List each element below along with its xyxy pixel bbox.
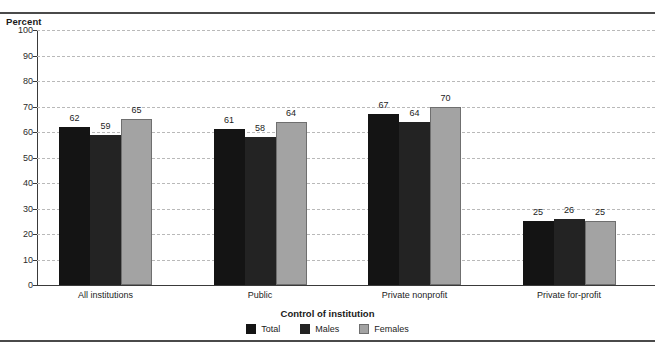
bar-females bbox=[430, 107, 461, 286]
bar-males bbox=[90, 135, 121, 285]
bar-males bbox=[399, 122, 430, 285]
y-axis-tick-label: 30 bbox=[5, 204, 33, 214]
y-axis-tick bbox=[33, 158, 37, 159]
legend-swatch-females bbox=[359, 324, 369, 334]
bar-value-label: 64 bbox=[286, 108, 296, 118]
legend-item-total: Total bbox=[246, 324, 280, 334]
legend-item-females: Females bbox=[359, 324, 409, 334]
legend-swatch-males bbox=[300, 324, 310, 334]
y-axis-tick-label: 50 bbox=[5, 153, 33, 163]
x-axis-category-label: All institutions bbox=[78, 290, 133, 300]
y-axis-tick bbox=[33, 107, 37, 108]
chart-legend: TotalMalesFemales bbox=[0, 324, 655, 334]
legend-label: Total bbox=[261, 324, 280, 334]
y-axis-tick bbox=[33, 30, 37, 31]
y-axis-tick-label: 60 bbox=[5, 127, 33, 137]
bar-value-label: 25 bbox=[533, 207, 543, 217]
y-axis-tick-label: 40 bbox=[5, 178, 33, 188]
legend-label: Males bbox=[315, 324, 339, 334]
legend-label: Females bbox=[374, 324, 409, 334]
bar-total bbox=[59, 127, 90, 285]
bar-value-label: 62 bbox=[69, 113, 79, 123]
x-axis-line bbox=[37, 285, 655, 286]
y-axis-tick bbox=[33, 260, 37, 261]
legend-item-males: Males bbox=[300, 324, 339, 334]
gridline bbox=[37, 107, 655, 108]
y-axis-tick bbox=[33, 81, 37, 82]
x-axis-category-label: Private for-profit bbox=[537, 290, 601, 300]
y-axis-tick bbox=[33, 234, 37, 235]
bar-females bbox=[121, 119, 152, 285]
bottom-rule bbox=[0, 340, 655, 342]
gridline bbox=[37, 56, 655, 57]
y-axis-tick bbox=[33, 285, 37, 286]
y-axis-tick-label: 0 bbox=[5, 280, 33, 290]
y-axis-tick-label: 80 bbox=[5, 76, 33, 86]
y-axis-tick-label: 10 bbox=[5, 255, 33, 265]
x-axis-title: Control of institution bbox=[0, 308, 655, 319]
bar-value-label: 58 bbox=[255, 123, 265, 133]
bar-value-label: 70 bbox=[440, 93, 450, 103]
y-axis-tick bbox=[33, 209, 37, 210]
gridline bbox=[37, 30, 655, 31]
y-axis-tick-label: 70 bbox=[5, 102, 33, 112]
y-axis-tick-label: 100 bbox=[5, 25, 33, 35]
bar-males bbox=[554, 219, 585, 285]
y-axis-tick-label: 20 bbox=[5, 229, 33, 239]
legend-swatch-total bbox=[246, 324, 256, 334]
cut-off-header-text bbox=[236, 0, 386, 10]
y-axis-tick bbox=[33, 183, 37, 184]
bar-total bbox=[368, 114, 399, 285]
gridline bbox=[37, 81, 655, 82]
y-axis-tick-label: 90 bbox=[5, 51, 33, 61]
bar-value-label: 65 bbox=[131, 105, 141, 115]
bar-females bbox=[585, 221, 616, 285]
bar-value-label: 64 bbox=[409, 108, 419, 118]
bar-males bbox=[245, 137, 276, 285]
bar-total bbox=[523, 221, 554, 285]
bar-total bbox=[214, 129, 245, 285]
bar-females bbox=[276, 122, 307, 285]
top-rule bbox=[0, 12, 655, 14]
bar-value-label: 59 bbox=[100, 121, 110, 131]
bar-value-label: 25 bbox=[595, 207, 605, 217]
y-axis-tick bbox=[33, 56, 37, 57]
y-axis-tick bbox=[33, 132, 37, 133]
bar-value-label: 26 bbox=[564, 205, 574, 215]
plot-area: 625965615864676470252625 bbox=[37, 30, 655, 285]
bar-value-label: 67 bbox=[378, 100, 388, 110]
x-axis-category-label: Private nonprofit bbox=[382, 290, 448, 300]
chart-page: Percent 625965615864676470252625 0102030… bbox=[0, 0, 655, 349]
bar-value-label: 61 bbox=[224, 115, 234, 125]
x-axis-category-label: Public bbox=[248, 290, 273, 300]
